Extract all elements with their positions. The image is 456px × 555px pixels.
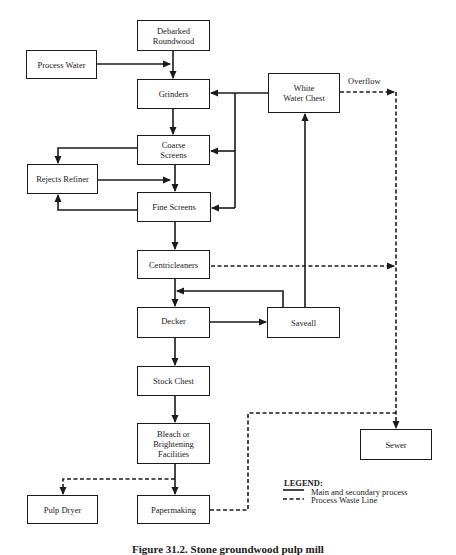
box-coarse-screens: Coarse Screens [137,135,210,165]
box-fine-screens: Fine Screens [137,192,211,222]
box-rejects-refiner: Rejects Refiner [27,164,98,194]
box-grinders: Grinders [137,79,210,109]
box-process-water: Process Water [26,50,97,79]
box-saveall: Saveall [267,307,340,338]
box-stock-chest: Stock Chest [137,366,210,396]
box-sewer: Sewer [360,429,432,460]
box-pulp-dryer: Pulp Dryer [27,495,98,524]
figure-caption: Figure 31.2. Stone groundwood pulp mill [0,543,456,555]
label-overflow: Overflow [348,76,381,86]
box-white-water-chest: White Water Chest [268,73,340,113]
box-bleach-brightening: Bleach or Brightening Facilities [137,423,210,464]
box-decker: Decker [137,307,210,338]
box-debarked-roundwood: Debarked Roundwood [137,20,210,51]
legend-dashed-label: Process Waste Line [311,495,377,505]
box-papermaking: Papermaking [137,495,210,524]
box-centricleaners: Centricleaners [137,250,210,279]
